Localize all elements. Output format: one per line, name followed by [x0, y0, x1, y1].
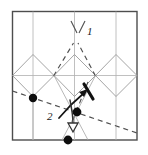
step-label-1: 1: [87, 26, 93, 37]
crease-pattern-canvas: [0, 0, 148, 155]
dot-center: [73, 108, 82, 117]
dot-bottom: [64, 136, 73, 145]
dot-left: [29, 94, 37, 102]
crease-pattern-figure: 1 2: [0, 0, 148, 155]
step-label-2: 2: [47, 111, 53, 122]
